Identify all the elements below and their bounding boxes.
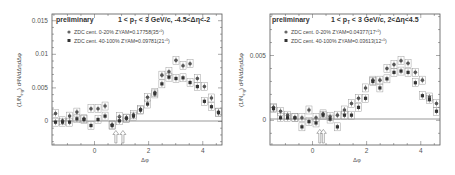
legend-marker-0-20 <box>67 30 70 33</box>
data-point-40-100 <box>132 115 135 118</box>
data-point-0-20 <box>357 97 361 101</box>
left-title: preliminary <box>56 16 94 24</box>
data-point-0-20 <box>406 61 410 65</box>
arrow-marker-icon <box>113 130 119 143</box>
y-tick-label: 0.005 <box>250 52 267 59</box>
data-point-40-100 <box>399 69 402 72</box>
data-point-40-100 <box>196 85 199 88</box>
data-point-40-100 <box>272 107 275 110</box>
left-arrow-markers <box>113 130 126 143</box>
data-point-40-100 <box>286 116 289 119</box>
data-point-40-100 <box>371 80 374 83</box>
right-y-axis-label: (1/Ntrig) d²N/dΔηdΔφ <box>238 53 246 107</box>
data-point-40-100 <box>96 118 99 121</box>
data-point-0-20 <box>181 64 185 68</box>
x-tick-label: 4 <box>419 147 423 154</box>
data-point-40-100 <box>350 114 353 117</box>
data-point-40-100 <box>378 86 381 89</box>
legend-marker-40-100 <box>285 39 288 42</box>
data-point-40-100 <box>343 114 346 117</box>
data-point-40-100 <box>188 81 191 84</box>
data-point-40-100 <box>68 121 71 124</box>
right-y-tick-labels: 00.005 <box>250 52 267 124</box>
right-arrow-markers <box>317 129 327 143</box>
data-point-0-20 <box>174 59 178 63</box>
data-point-0-20 <box>399 59 403 63</box>
data-point-40-100 <box>75 117 78 120</box>
data-point-40-100 <box>314 121 317 124</box>
data-point-0-20 <box>300 116 304 120</box>
data-point-0-20 <box>435 102 439 106</box>
left-legend-entry-40-100: ZDC cent. 40-100% ZYAM=0.09781(21+0) <box>74 38 170 44</box>
x-tick-label: 2 <box>365 147 369 154</box>
data-point-0-20 <box>392 63 396 67</box>
x-tick-label: 2 <box>147 147 151 154</box>
data-point-40-100 <box>414 81 417 84</box>
data-point-40-100 <box>153 92 156 95</box>
y-tick-label: 0.01 <box>35 50 48 57</box>
arrow-marker-icon <box>120 130 126 143</box>
data-point-40-100 <box>89 124 92 127</box>
data-point-0-20 <box>96 107 100 111</box>
data-point-0-20 <box>196 77 200 81</box>
data-point-40-100 <box>428 98 431 101</box>
left-plot-panel: preliminary 1 < pT < 3 GeV/c, -4.5<Δη<-2… <box>16 14 222 163</box>
data-point-40-100 <box>110 124 113 127</box>
right-x-tick-labels: 024 <box>311 147 423 154</box>
data-point-40-100 <box>392 71 395 74</box>
data-point-40-100 <box>160 82 163 85</box>
data-point-40-100 <box>217 111 220 114</box>
chart-figure: preliminary 1 < pT < 3 GeV/c, -4.5<Δη<-2… <box>0 0 455 175</box>
data-point-40-100 <box>139 108 142 111</box>
data-point-0-20 <box>385 67 389 71</box>
data-point-0-20 <box>210 96 214 100</box>
data-point-0-20 <box>279 109 283 113</box>
data-point-40-100 <box>125 117 128 120</box>
data-point-40-100 <box>181 76 184 79</box>
data-point-0-20 <box>414 71 418 75</box>
data-point-40-100 <box>82 118 85 121</box>
data-point-40-100 <box>328 117 331 120</box>
data-point-0-20 <box>421 78 425 82</box>
data-point-40-100 <box>321 114 324 117</box>
data-point-0-20 <box>378 78 382 82</box>
right-legend-entry-0-20: ZDC cent. 0-20% ZYAM=0.04377(17+0) <box>291 29 381 35</box>
data-point-40-100 <box>61 121 64 124</box>
data-point-40-100 <box>406 71 409 74</box>
data-point-0-20 <box>160 73 164 77</box>
y-tick-label: 0 <box>44 117 48 124</box>
data-point-40-100 <box>279 116 282 119</box>
data-point-40-100 <box>174 77 177 80</box>
data-point-0-20 <box>350 102 354 106</box>
y-tick-label: 0.005 <box>32 84 49 91</box>
data-point-40-100 <box>103 115 106 118</box>
left-legend-entry-0-20: ZDC cent. 0-20% ZYAM=0.17758(35+0) <box>74 29 164 35</box>
x-tick-label: 0 <box>311 147 315 154</box>
left-x-tick-labels: 024 <box>93 147 205 154</box>
left-legend: ZDC cent. 0-20% ZYAM=0.17758(35+0) ZDC c… <box>67 29 170 44</box>
data-point-40-100 <box>203 100 206 103</box>
legend-marker-40-100 <box>68 39 71 42</box>
data-point-0-20 <box>103 104 107 108</box>
legend-marker-0-20 <box>284 30 287 33</box>
right-legend: ZDC cent. 0-20% ZYAM=0.04377(17+0) ZDC c… <box>284 29 387 44</box>
right-subtitle: 1 < pT < 3 GeV/c, 2<Δη<4.5 <box>331 16 419 25</box>
data-point-40-100 <box>210 105 213 108</box>
data-point-40-100 <box>385 77 388 80</box>
data-point-40-100 <box>118 119 121 122</box>
data-point-0-20 <box>188 62 192 66</box>
x-tick-label: 0 <box>93 147 97 154</box>
data-point-40-100 <box>421 94 424 97</box>
left-y-tick-labels: 00.0050.010.015 <box>32 17 49 125</box>
right-plot-panel: preliminary 1 < pT < 3 GeV/c, 2<Δη<4.5 Z… <box>238 14 440 163</box>
left-subtitle: 1 < pT < 3 GeV/c, -4.5<Δη<-2 <box>118 16 210 25</box>
data-point-40-100 <box>364 97 367 100</box>
data-point-40-100 <box>307 120 310 123</box>
data-point-0-20 <box>89 107 93 111</box>
data-point-0-20 <box>146 96 150 100</box>
y-tick-label: 0 <box>262 116 266 123</box>
right-title: preliminary <box>272 16 310 24</box>
data-point-0-20 <box>68 114 72 118</box>
data-point-40-100 <box>300 125 303 128</box>
data-point-0-20 <box>336 113 340 117</box>
